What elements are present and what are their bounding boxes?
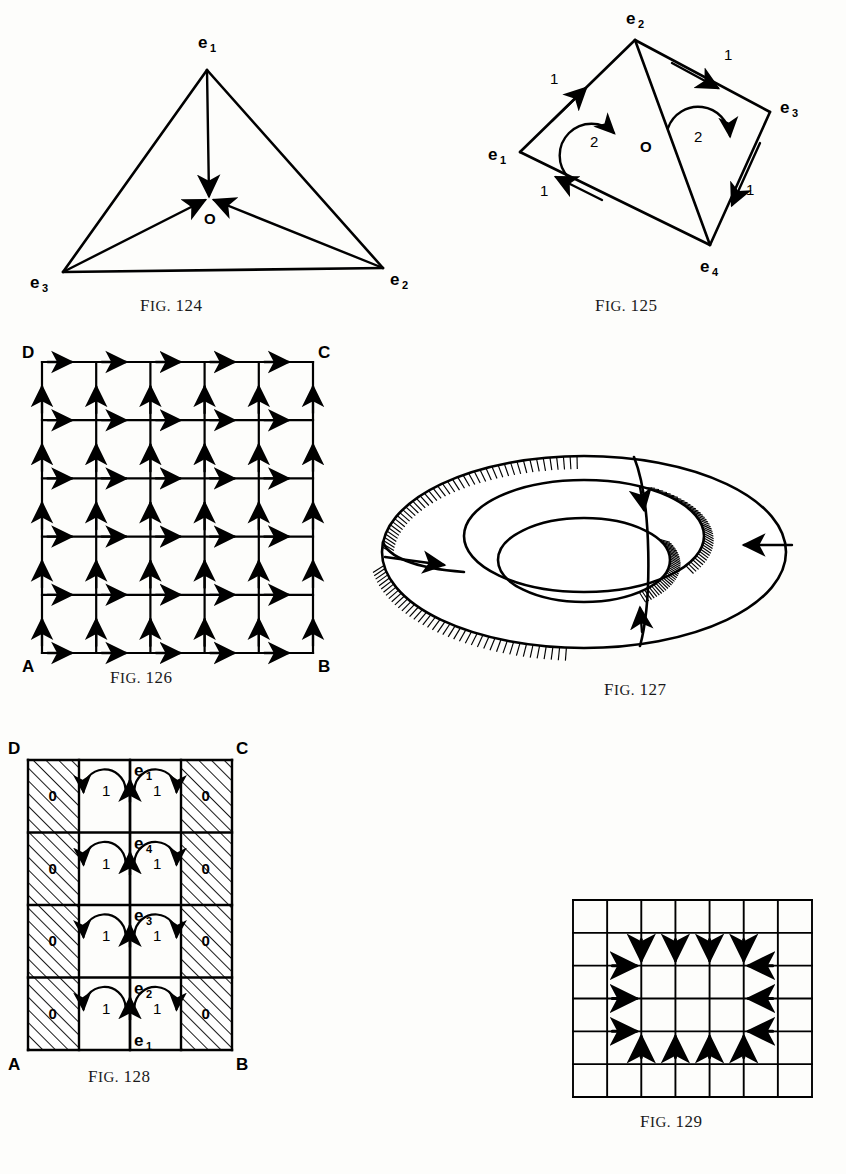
face-label-right-2: 2 (694, 128, 702, 145)
svg-text:e: e (30, 273, 39, 292)
svg-text:1: 1 (500, 154, 506, 166)
corner-label-d: D (22, 343, 34, 362)
rotation-cell-label: 1 (102, 855, 110, 872)
hatch-stroke (471, 634, 477, 646)
svg-text:1: 1 (146, 770, 152, 782)
hatch-stroke (551, 647, 553, 660)
hatch-stroke (374, 569, 385, 576)
svg-text:e: e (134, 979, 143, 998)
axis-label-e1: e1 (134, 1031, 152, 1052)
vertex-label-e2: e 2 (390, 270, 408, 291)
curved-arrow-left-face (560, 124, 614, 178)
arrow-e1-to-o (207, 70, 209, 196)
corner-label-c: C (236, 739, 248, 758)
hatch-stroke (644, 488, 655, 489)
hatch-stroke (497, 640, 502, 652)
svg-text:3: 3 (42, 282, 48, 294)
hatched-cell-label: 0 (202, 787, 210, 804)
corner-label-c: C (318, 343, 330, 362)
edge-label-e2-e3: 1 (724, 46, 732, 63)
vertex-label-e4: e 4 (700, 257, 719, 278)
corner-label-a: A (8, 1055, 20, 1074)
figure-129: FIG. 129 (550, 890, 840, 1120)
svg-text:e: e (780, 98, 789, 117)
svg-text:e: e (198, 33, 207, 52)
caption-fig-125: FIG. 125 (595, 296, 658, 316)
svg-text:3: 3 (792, 107, 798, 119)
vertex-label-e1: e 1 (198, 33, 216, 54)
rotation-cell-label: 1 (153, 927, 161, 944)
svg-text:1: 1 (146, 1040, 152, 1052)
hatch-stroke (432, 619, 440, 630)
hatch-stroke (523, 644, 526, 657)
svg-text:e: e (134, 906, 143, 925)
vertex-label-e3: e 3 (30, 273, 48, 294)
hatch-stroke (484, 637, 489, 649)
svg-text:4: 4 (712, 266, 719, 278)
hatch-stroke (448, 626, 455, 637)
hatch-stroke (373, 565, 384, 572)
hatch-stroke (454, 628, 461, 639)
svg-text:e: e (390, 270, 399, 289)
hatch-stroke (465, 632, 471, 644)
svg-text:1: 1 (210, 42, 216, 54)
svg-text:e: e (134, 834, 143, 853)
torus-body (382, 456, 786, 648)
figure-128: 0000000011111111e1e4e3e2e1DCAB FIG. 128 (0, 715, 300, 1075)
hatch-stroke (381, 581, 391, 589)
svg-text:e: e (134, 761, 143, 780)
svg-text:e: e (626, 9, 635, 28)
arrow-e2-to-o (214, 200, 383, 268)
hatch-stroke (544, 646, 546, 659)
grid-lines-126 (42, 362, 313, 653)
axis-label-e1: e1 (134, 761, 152, 782)
vertex-label-e3: e 3 (780, 98, 798, 119)
vertex-label-e2: e 2 (626, 9, 644, 30)
figure-124: e 1 e 3 e 2 O FIG. 124 (0, 0, 440, 300)
figure-127: FIG. 127 (352, 432, 822, 682)
hatch-stroke (510, 642, 514, 654)
face-label-left-2: 2 (590, 133, 598, 150)
caption-fig-129: FIG. 129 (640, 1112, 703, 1132)
hatch-stroke (530, 645, 533, 658)
svg-text:4: 4 (146, 843, 153, 855)
hatch-stroke (438, 622, 446, 633)
svg-text:3: 3 (146, 915, 152, 927)
edge-label-e1-e2: 1 (550, 70, 558, 87)
rotation-cell-label: 1 (153, 1000, 161, 1017)
hatch-stroke (503, 641, 507, 653)
hatch-stroke (537, 646, 540, 659)
edge-label-e3-e4: 1 (746, 181, 754, 198)
rotation-cell-label: 1 (102, 782, 110, 799)
hatched-cell-label: 0 (49, 860, 57, 877)
svg-text:e: e (134, 1031, 143, 1050)
caption-fig-124: FIG. 124 (140, 296, 203, 316)
svg-text:2: 2 (146, 988, 152, 1000)
hatched-cell-label: 0 (202, 860, 210, 877)
grid-arrows-126 (42, 362, 313, 653)
hatch-stroke (490, 638, 495, 650)
svg-text:2: 2 (638, 18, 644, 30)
hatch-stroke (376, 572, 387, 579)
grid-lines-129 (573, 900, 812, 1097)
arrow-edge-e1-e2 (552, 88, 586, 121)
axis-label-e4: e4 (134, 834, 153, 855)
arrow-e3-to-o (63, 200, 205, 272)
edge-label-e4-e1: 1 (540, 182, 548, 199)
svg-text:2: 2 (402, 279, 408, 291)
hatched-cell-label: 0 (202, 1005, 210, 1022)
hatch-stroke (648, 489, 659, 490)
rotation-cell-label: 1 (102, 927, 110, 944)
hatch-stroke (428, 617, 436, 627)
rotation-cell-label: 1 (102, 1000, 110, 1017)
hatch-stroke (558, 647, 559, 660)
figure-page: e 1 e 3 e 2 O FIG. 124 (0, 0, 846, 1174)
corner-label-d: D (8, 739, 20, 758)
svg-text:e: e (700, 257, 709, 276)
axis-label-e2: e2 (134, 979, 152, 1000)
corner-label-b: B (236, 1055, 248, 1074)
vertex-label-e1: e 1 (488, 145, 506, 166)
hatch-stroke (459, 630, 465, 641)
arrow-edge-e2-e3 (672, 63, 718, 88)
axis-label-e3: e3 (134, 906, 152, 927)
